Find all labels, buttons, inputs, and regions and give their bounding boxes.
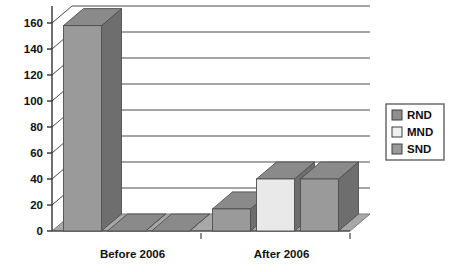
y-axis-tick-label: 0 (37, 225, 43, 237)
y-axis-tick-label: 40 (30, 173, 43, 185)
legend-label: SND (407, 143, 431, 155)
y-axis-tick-label: 140 (24, 43, 43, 55)
bar-front-face (257, 179, 295, 231)
legend-swatch (392, 110, 402, 120)
bar-snd-1 (301, 162, 359, 231)
legend-swatch (392, 127, 402, 137)
category-label: Before 2006 (100, 248, 165, 260)
bar-rnd-0 (64, 9, 122, 231)
chart-canvas: 020406080100120140160 Before 2006After 2… (0, 0, 456, 272)
legend-item-mnd[interactable]: MND (392, 126, 433, 138)
y-axis-tick-label: 120 (24, 69, 43, 81)
chart-legend: RNDMNDSND (386, 104, 444, 160)
bar-chart-3d: 020406080100120140160 Before 2006After 2… (0, 0, 456, 272)
y-axis-tick-label: 60 (30, 147, 43, 159)
bar-side-face (102, 9, 122, 231)
y-axis-tick-label: 20 (30, 199, 43, 211)
bar-front-face (213, 209, 251, 231)
legend-item-snd[interactable]: SND (392, 143, 431, 155)
legend-label: RND (407, 109, 432, 121)
y-axis-tick-label: 100 (24, 95, 43, 107)
legend-item-rnd[interactable]: RND (392, 109, 432, 121)
y-axis-tick-label: 80 (30, 121, 43, 133)
bar-front-face (301, 179, 339, 231)
legend-label: MND (407, 126, 433, 138)
y-axis-tick-label: 160 (24, 17, 43, 29)
bar-front-face (64, 26, 102, 231)
category-label: After 2006 (254, 248, 310, 260)
legend-swatch (392, 144, 402, 154)
